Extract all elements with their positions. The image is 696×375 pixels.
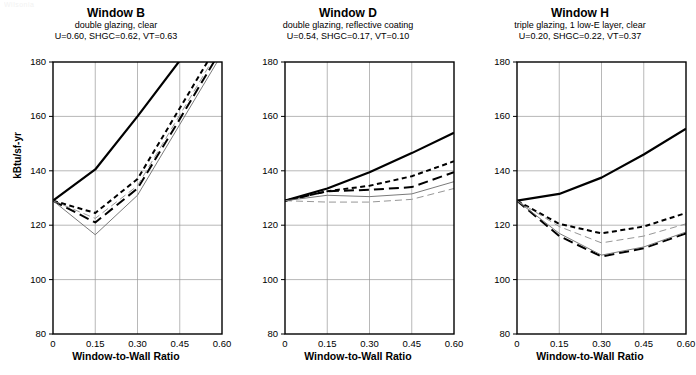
x-tick-label: 0 — [33, 339, 73, 349]
x-tick-label: 0.45 — [392, 339, 432, 349]
x-tick-label: 0.45 — [160, 339, 200, 349]
x-tick-label: 0.15 — [307, 339, 347, 349]
y-tick-label: 80 — [20, 329, 46, 339]
x-tick-label: 0.60 — [666, 339, 696, 349]
y-tick-label: 120 — [484, 220, 510, 230]
chart-panel-2: Window Ddouble glazing, reflective coati… — [232, 0, 464, 375]
x-tick-label: 0.45 — [624, 339, 664, 349]
y-tick-label: 140 — [484, 166, 510, 176]
x-tick-label: 0 — [497, 339, 537, 349]
y-tick-label: 180 — [252, 57, 278, 67]
x-tick-label: 0.15 — [75, 339, 115, 349]
chart-panel-row: Window Bdouble glazing, clearU=0.60, SHG… — [0, 0, 696, 375]
x-tick-label: 0.30 — [350, 339, 390, 349]
y-tick-label: 120 — [20, 220, 46, 230]
y-tick-label: 80 — [484, 329, 510, 339]
y-tick-label: 180 — [20, 57, 46, 67]
x-axis-label: Window-to-Wall Ratio — [252, 350, 464, 362]
chart-panel-1: Window Bdouble glazing, clearU=0.60, SHG… — [0, 0, 232, 375]
y-tick-label: 120 — [252, 220, 278, 230]
axis-label-layer: 8010012014016018000.150.300.450.60Window… — [0, 0, 232, 375]
x-axis-label: Window-to-Wall Ratio — [484, 350, 696, 362]
x-tick-label: 0.15 — [539, 339, 579, 349]
x-tick-label: 0.30 — [582, 339, 622, 349]
y-tick-label: 160 — [484, 111, 510, 121]
y-tick-label: 140 — [20, 166, 46, 176]
x-tick-label: 0.30 — [118, 339, 158, 349]
y-tick-label: 100 — [252, 275, 278, 285]
y-tick-label: 100 — [484, 275, 510, 285]
y-tick-label: 160 — [20, 111, 46, 121]
chart-panel-3: Window Htriple glazing, 1 low-E layer, c… — [464, 0, 696, 375]
y-axis-label: kBtu/sf-yr — [12, 111, 23, 201]
axis-label-layer: 8010012014016018000.150.300.450.60Window… — [232, 0, 464, 375]
y-tick-label: 80 — [252, 329, 278, 339]
x-tick-label: 0 — [265, 339, 305, 349]
x-axis-label: Window-to-Wall Ratio — [20, 350, 232, 362]
y-tick-label: 180 — [484, 57, 510, 67]
y-tick-label: 140 — [252, 166, 278, 176]
axis-label-layer: 8010012014016018000.150.300.450.60Window… — [464, 0, 696, 375]
y-tick-label: 100 — [20, 275, 46, 285]
y-tick-label: 160 — [252, 111, 278, 121]
